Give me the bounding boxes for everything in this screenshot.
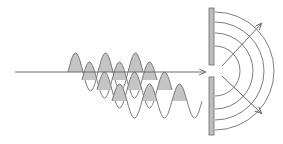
wavefront-arc (215, 46, 240, 96)
barrier-lower-plate (209, 77, 214, 135)
wavefront-arc (215, 22, 264, 120)
wavefront-arc (215, 33, 253, 109)
diffraction-diagram: Diffraction of a wave through a single s… (0, 0, 283, 144)
diffracted-ray-arrow (222, 76, 261, 113)
incident-wave-trains (68, 53, 202, 118)
diffracted-ray-arrow (222, 24, 261, 66)
diagram-canvas (0, 0, 283, 144)
wavefront-arc (215, 12, 274, 130)
barrier-upper-plate (209, 8, 214, 65)
wave-train (97, 72, 172, 108)
diffracted-wavefronts (215, 12, 274, 130)
slit-barrier (209, 8, 214, 135)
